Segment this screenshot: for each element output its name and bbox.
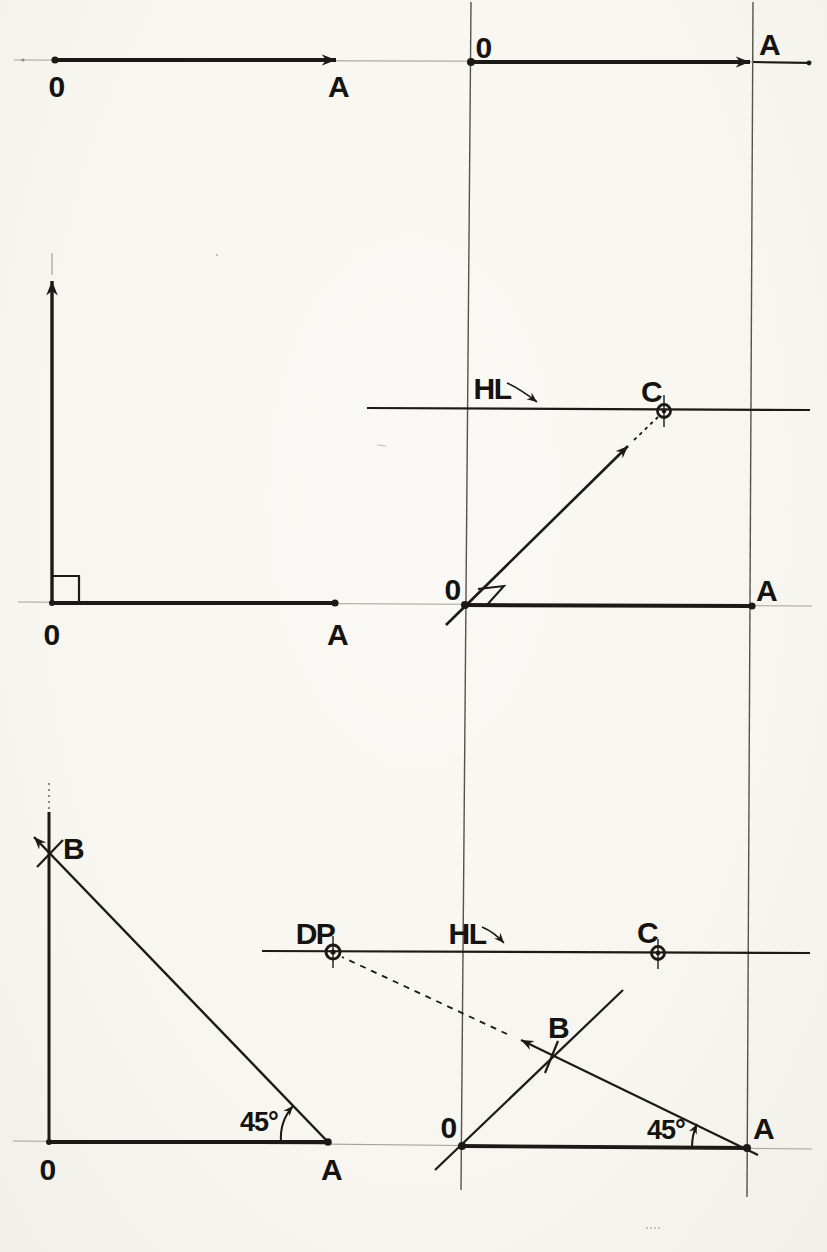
- hl-leader-arrow: [507, 383, 537, 402]
- diagonal-ab-arrow: [34, 837, 328, 1142]
- label-o: 0: [48, 70, 64, 103]
- stray-ink-speck: [216, 254, 218, 256]
- right-angle-mark: [52, 576, 79, 603]
- label-c: C: [641, 375, 662, 408]
- panel-step2-transferred-line: 0 A: [467, 28, 811, 66]
- horizon-line: [367, 408, 810, 410]
- label-a: A: [328, 70, 349, 103]
- point-a-dot: [748, 602, 755, 609]
- horizon-line: [262, 951, 810, 953]
- point-o-dot: [49, 600, 55, 606]
- panel-step3-perpendicular: 0 A: [43, 253, 348, 651]
- dashed-continuation-to-dp: [342, 957, 507, 1034]
- scanned-diagram-page: 0 A 0 A 0 A HL C 0 A: [0, 0, 827, 1252]
- label-45-degrees: 45°: [647, 1115, 685, 1145]
- point-a-dot: [331, 599, 338, 606]
- dashed-continuation-to-c: [634, 417, 658, 440]
- point-o-dot: [51, 56, 58, 63]
- perspective-construction-figure: 0 A 0 A 0 A HL C 0 A: [0, 0, 827, 1252]
- diagonal-ray-from-a-arrow: [521, 1040, 758, 1155]
- label-a: A: [321, 1153, 342, 1186]
- panel-step6-distance-point: DP HL C 45° B 0 A: [262, 916, 810, 1170]
- label-c: C: [637, 916, 658, 949]
- point-o-dot: [458, 1142, 466, 1150]
- construction-grid: [13, 2, 812, 1228]
- label-a: A: [759, 28, 780, 61]
- point-o-dot: [461, 601, 469, 609]
- label-a: A: [756, 574, 777, 607]
- stray-ink-dash: [377, 445, 386, 446]
- baseline-oa: [462, 1146, 747, 1148]
- baseline-oa: [465, 605, 752, 606]
- label-b: B: [548, 1011, 569, 1044]
- label-45-degrees: 45°: [240, 1107, 278, 1137]
- panel-step5-triangle: 45° B 0 A: [34, 783, 342, 1186]
- stray-ink-dot: [21, 58, 24, 61]
- label-o: 0: [440, 1111, 456, 1144]
- point-a-dot: [324, 1138, 332, 1146]
- angle-tick-at-o: [478, 586, 504, 606]
- label-o: 0: [475, 31, 491, 64]
- angle-arc-45: [281, 1106, 293, 1142]
- point-o-dot: [46, 1139, 52, 1145]
- label-hl: HL: [474, 372, 512, 405]
- diagonal-ray-from-o: [446, 446, 628, 625]
- label-dp: DP: [296, 917, 335, 950]
- label-o: 0: [444, 573, 460, 606]
- panel-step1-measured-line: 0 A: [48, 56, 349, 103]
- angle-arc-45: [692, 1124, 697, 1147]
- panel-step4-sight-ray: HL C 0 A: [367, 372, 810, 625]
- label-o: 0: [39, 1153, 55, 1186]
- vertical-construction-line-right: [747, 2, 753, 1197]
- point-o-dot: [467, 58, 475, 66]
- label-a: A: [753, 1112, 774, 1145]
- point-a-dot: [743, 1144, 751, 1152]
- line-extension-right: [753, 62, 808, 63]
- label-b: B: [63, 832, 84, 865]
- label-o: 0: [43, 618, 59, 651]
- line-end-dot: [807, 61, 812, 66]
- vertical-construction-line-left: [461, 2, 471, 1190]
- label-a: A: [327, 618, 348, 651]
- label-hl: HL: [449, 917, 487, 950]
